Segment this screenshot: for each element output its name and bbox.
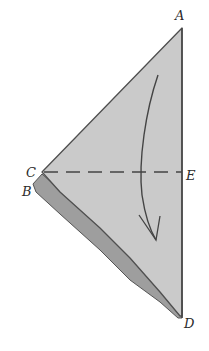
label-d: D [183, 316, 195, 331]
label-a: A [174, 8, 184, 23]
label-e: E [185, 168, 196, 183]
label-b: B [21, 184, 32, 199]
origami-diagram: A C B E D [0, 0, 209, 351]
label-c: C [26, 165, 36, 180]
